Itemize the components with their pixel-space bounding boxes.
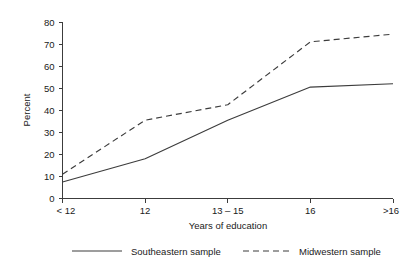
y-tick-label: 30 [44,127,55,138]
line-chart: 01020304050607080 < 121213 – 1516>16 Per… [0,0,411,271]
x-tick-label: 12 [140,205,151,216]
series-line-southeastern-sample [63,84,394,182]
y-tick-label: 0 [49,193,54,204]
legend-label-southeastern-sample: Southeastern sample [131,246,221,257]
y-tick-label-group: 01020304050607080 [44,17,55,205]
series-line-midwestern-sample [63,34,394,174]
x-axis-title: Years of education [189,220,267,231]
x-tick-label-group: < 121213 – 1516>16 [57,205,400,216]
y-tick-group [59,22,63,199]
y-tick-label: 10 [44,171,55,182]
legend-label-midwestern-sample: Midwestern sample [299,246,381,257]
y-tick-label: 70 [44,39,55,50]
y-tick-label: 50 [44,83,55,94]
legend: Southeastern sample Midwestern sample [72,246,381,257]
x-tick-label: 13 – 15 [212,205,244,216]
x-tick-group [63,199,394,203]
chart-figure: 01020304050607080 < 121213 – 1516>16 Per… [0,0,411,271]
y-tick-label: 40 [44,105,55,116]
x-tick-label: >16 [383,205,399,216]
x-tick-label: < 12 [57,205,76,216]
y-axis-title: Percent [21,93,32,126]
y-tick-label: 20 [44,149,55,160]
x-tick-label: 16 [305,205,316,216]
y-tick-label: 60 [44,61,55,72]
y-tick-label: 80 [44,17,55,28]
